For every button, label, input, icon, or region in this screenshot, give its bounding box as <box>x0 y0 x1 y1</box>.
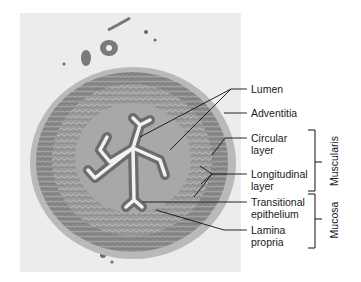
label-circular-layer: Circular layer <box>251 132 287 156</box>
group-label-muscularis: Muscularis <box>328 126 342 196</box>
bracket-mucosa <box>308 194 322 248</box>
micrograph-figure <box>0 0 361 282</box>
group-label-mucosa: Mucosa <box>328 190 342 250</box>
group-brackets <box>308 130 322 248</box>
label-lumen: Lumen <box>251 83 283 95</box>
label-adventitia: Adventitia <box>251 107 297 119</box>
label-longitudinal-layer: Longitudinal layer <box>251 168 308 192</box>
label-transitional-epithelium: Transitional epithelium <box>251 196 305 220</box>
label-lamina-propria: Lamina propria <box>251 224 285 248</box>
bracket-muscularis <box>308 130 322 191</box>
